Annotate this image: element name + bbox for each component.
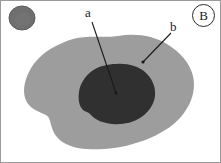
- leader-a-endpoint-dot: [114, 91, 117, 94]
- label-b: b: [170, 20, 177, 33]
- leader-b-endpoint-dot: [141, 60, 144, 63]
- panel-letter-badge: B: [192, 4, 215, 27]
- label-a: a: [85, 6, 91, 19]
- figure-canvas: [0, 0, 221, 163]
- reference-circle-highlight: [15, 12, 31, 26]
- figure-panel: a b B: [0, 0, 221, 163]
- panel-letter-text: B: [199, 9, 208, 22]
